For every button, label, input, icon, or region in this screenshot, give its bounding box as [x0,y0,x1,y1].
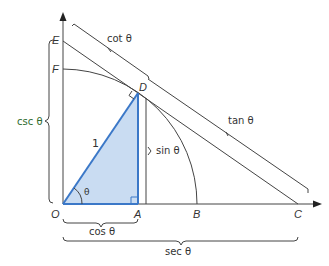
right-angle-d-icon [129,91,134,99]
sin-bracket-tip [148,147,151,155]
label-sec: sec θ [165,247,191,257]
label-cos: cos θ [89,227,115,237]
point-label-e: E [52,35,59,46]
sec-bracket [63,237,298,245]
x-axis-arrow-icon [313,201,322,208]
label-tan: tan θ [228,116,254,126]
point-label-o: O [51,209,60,220]
label-sin: sin θ [156,146,180,156]
point-label-a: A [134,209,141,220]
y-axis-arrow-icon [60,12,67,21]
label-cot: cot θ [107,34,132,44]
label-angle-theta: θ [84,188,90,197]
label-csc: csc θ [17,117,43,127]
point-label-d: D [139,82,147,93]
point-label-b: B [193,209,200,220]
sin-bracket [147,100,155,204]
trig-diagram [0,0,329,266]
point-label-c: C [294,209,302,220]
label-hypotenuse: 1 [92,138,99,149]
point-label-f: F [52,64,59,75]
